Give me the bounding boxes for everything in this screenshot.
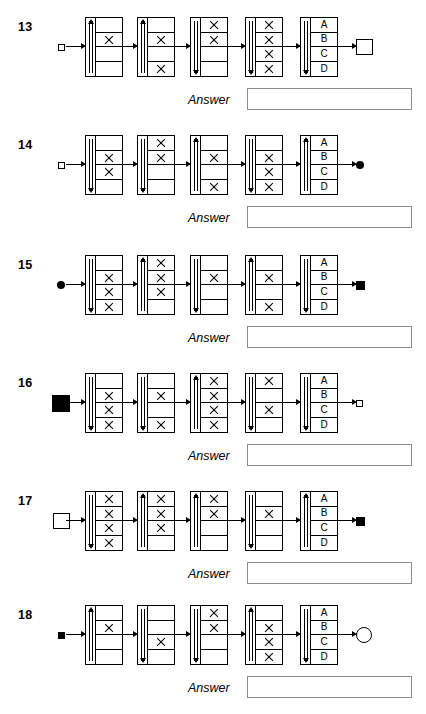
gate-cell (148, 635, 174, 650)
answer-input[interactable] (247, 676, 412, 698)
gate-cell-label: A (311, 608, 337, 618)
gate-cells (148, 606, 174, 664)
cross-icon (264, 34, 275, 45)
connector-arrow (283, 164, 300, 165)
gate-cell (201, 635, 227, 650)
gate-cell: C (311, 285, 337, 300)
gate-rail (191, 374, 201, 432)
connector-arrow (123, 164, 137, 165)
rail-bar (194, 377, 198, 429)
gate-box: ABCD (300, 255, 338, 315)
answer-input[interactable] (247, 206, 412, 228)
gate-rail (301, 18, 311, 76)
rail-bar (304, 139, 308, 191)
gate-cell-label: C (311, 287, 337, 297)
cross-icon (156, 508, 167, 519)
gate-cell (148, 285, 174, 300)
rail-bar (304, 259, 308, 311)
gate-rail (86, 374, 96, 432)
connector-arrow (123, 284, 137, 285)
gate-cell (96, 18, 122, 33)
gate-box (190, 491, 228, 551)
gate-cell (201, 285, 227, 300)
gate-box (245, 17, 283, 77)
gate-cells (148, 18, 174, 76)
square-small-open-icon (58, 162, 65, 169)
rail-bar (141, 21, 145, 73)
gate-cell (201, 389, 227, 404)
gate-rail (191, 492, 201, 550)
gate-rail (138, 492, 148, 550)
gate-cell (148, 180, 174, 195)
gate-cells (148, 256, 174, 314)
gate-box: ABCD (300, 605, 338, 665)
gate-cell (96, 300, 122, 315)
gate-cell: A (311, 256, 337, 271)
arrow-down-icon (193, 308, 199, 313)
arrow-up-icon (193, 137, 199, 142)
answer-input[interactable] (247, 326, 412, 348)
arrow-up-icon (140, 257, 146, 262)
gate-cells: ABCD (311, 606, 337, 664)
gate-cell: C (311, 403, 337, 418)
gate-cells: ABCD (311, 492, 337, 550)
gate-cell-label: C (311, 523, 337, 533)
connector-arrow (66, 284, 85, 285)
answer-input[interactable] (247, 562, 412, 584)
arrow-up-icon (303, 493, 309, 498)
gate-cell: D (311, 62, 337, 77)
connector-arrow (175, 164, 190, 165)
gate-cell (256, 285, 282, 300)
gate-cell (96, 33, 122, 48)
answer-row: Answer (0, 326, 426, 352)
gate-cells: ABCD (311, 136, 337, 194)
gate-cell (201, 403, 227, 418)
cross-icon (104, 286, 115, 297)
gate-cell: C (311, 47, 337, 62)
output-symbol (352, 366, 386, 440)
gate-cell (201, 271, 227, 286)
gate-rail (138, 136, 148, 194)
gate-rail (138, 18, 148, 76)
pipeline: ABCD (0, 366, 426, 440)
gate-rail (301, 492, 311, 550)
cross-icon (264, 651, 275, 662)
gate-cell: A (311, 136, 337, 151)
gate-cells (201, 18, 227, 76)
gate-box (85, 255, 123, 315)
rail-bar (89, 609, 93, 661)
answer-input[interactable] (247, 88, 412, 110)
cross-icon (156, 390, 167, 401)
gate-cell (148, 33, 174, 48)
answer-input[interactable] (247, 444, 412, 466)
arrow-up-icon (193, 493, 199, 498)
gate-cells (256, 136, 282, 194)
gate-box (137, 373, 175, 433)
gate-cells (148, 492, 174, 550)
cross-icon (264, 166, 275, 177)
gate-cell (201, 47, 227, 62)
circle-small-filled-icon (356, 161, 364, 169)
arrow-down-icon (193, 658, 199, 663)
cross-icon (104, 622, 115, 633)
gate-cell (96, 271, 122, 286)
gate-cells (148, 374, 174, 432)
gate-cell (148, 418, 174, 433)
answer-label: Answer (188, 567, 230, 581)
cross-icon (104, 272, 115, 283)
arrow-down-icon (248, 544, 254, 549)
arrow-up-icon (140, 493, 146, 498)
gate-cell (148, 47, 174, 62)
puzzle-row: 14ABCDAnswer (0, 128, 426, 246)
connector-arrow (228, 520, 245, 521)
rail-bar (194, 259, 198, 311)
gate-cell: B (311, 507, 337, 522)
gate-box (190, 255, 228, 315)
cross-icon (209, 272, 220, 283)
cross-icon (264, 622, 275, 633)
cross-icon (209, 508, 220, 519)
rail-bar (249, 21, 253, 73)
gate-cell-label: A (311, 376, 337, 386)
gate-cell (256, 18, 282, 33)
gate-rail (86, 256, 96, 314)
